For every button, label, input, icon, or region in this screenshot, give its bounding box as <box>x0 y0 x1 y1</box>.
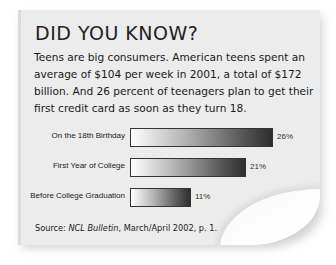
bar-value-label: 21% <box>250 162 266 171</box>
bar <box>130 158 246 177</box>
source-citation: Source: NCL Bulletin, March/April 2002, … <box>35 223 217 233</box>
source-suffix: , March/April 2002, p. 1. <box>119 223 218 233</box>
bar-category-label: First Year of College <box>53 161 125 170</box>
bar-category-label: Before College Graduation <box>30 191 125 200</box>
bar-row: On the 18th Birthday26% <box>21 128 320 147</box>
bar-row: First Year of College21% <box>21 158 320 177</box>
bar-value-label: 26% <box>277 132 293 141</box>
source-prefix: Source: <box>35 223 68 233</box>
bar <box>130 188 191 207</box>
bar-value-label: 11% <box>195 192 210 201</box>
source-publication: NCL Bulletin <box>68 223 118 233</box>
bar <box>130 128 273 147</box>
bar-category-label: On the 18th Birthday <box>52 131 125 140</box>
did-you-know-card: DID YOU KNOW? Teens are big consumers. A… <box>18 10 320 245</box>
